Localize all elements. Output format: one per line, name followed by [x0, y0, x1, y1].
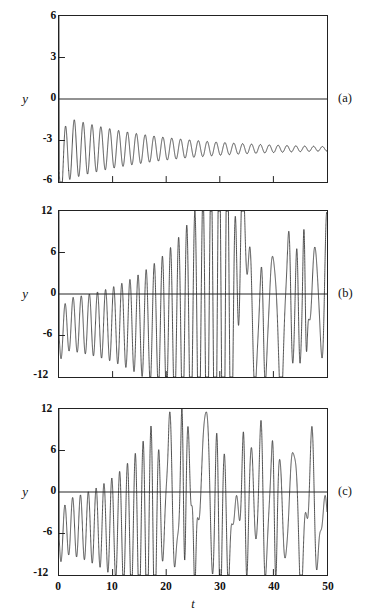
panel-c: y 12 6 0 -6 -12 (c) 0 10 20 30 40 50 t	[0, 390, 374, 614]
panel-a-ytick-1: 3	[26, 50, 56, 62]
panel-c-ylabel: y	[6, 484, 28, 500]
panel-c-xtick-4: 40	[260, 580, 288, 592]
panel-b-plot-area	[58, 210, 328, 378]
panel-b-ytick-4: -12	[18, 368, 48, 380]
panel-b: y 12 6 0 -6 -12 (b)	[0, 200, 374, 390]
panel-a-letter: (a)	[338, 91, 352, 106]
panel-b-curve-svg	[59, 211, 327, 377]
panel-c-ytick-0: 12	[22, 402, 52, 414]
panel-c-xtick-2: 20	[152, 580, 180, 592]
panel-c-xtick-1: 10	[98, 580, 126, 592]
panel-c-ytick-4: -12	[18, 566, 48, 578]
panel-a-ytick-0: 6	[26, 9, 56, 21]
panel-c-letter: (c)	[338, 484, 352, 499]
panel-b-ytick-3: -6	[22, 327, 52, 339]
panel-c-xtick-0: 0	[44, 580, 72, 592]
panel-a-ytick-4: -6	[22, 173, 52, 185]
panel-b-letter: (b)	[338, 286, 353, 301]
panel-a-curve-svg	[59, 16, 327, 182]
panel-a-plot-area	[58, 15, 328, 183]
figure-three-panel-timeseries: y 6 3 0 -3 -6 (a) y 12 6 0 -6 -12 (b) y …	[0, 0, 374, 614]
panel-a: y 6 3 0 -3 -6 (a)	[0, 0, 374, 200]
panel-c-ytick-3: -6	[22, 525, 52, 537]
panel-b-ytick-2: 0	[26, 286, 56, 298]
figure-xlabel: t	[173, 597, 213, 612]
panel-a-ylabel: y	[6, 91, 28, 107]
panel-c-ytick-1: 6	[26, 443, 56, 455]
panel-b-ytick-0: 12	[22, 204, 52, 216]
panel-c-xtick-5: 50	[314, 580, 342, 592]
panel-a-ytick-3: -3	[22, 132, 52, 144]
panel-c-ytick-2: 0	[26, 484, 56, 496]
panel-a-ytick-2: 0	[26, 91, 56, 103]
panel-b-ylabel: y	[6, 286, 28, 302]
panel-c-plot-area	[58, 408, 328, 576]
panel-c-xtick-3: 30	[206, 580, 234, 592]
panel-b-ytick-1: 6	[26, 245, 56, 257]
panel-c-curve-svg	[59, 409, 327, 575]
